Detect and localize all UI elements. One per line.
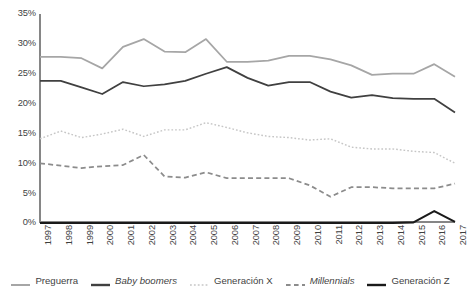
x-tick-2001: 2001 (127, 225, 136, 245)
y-tick-5pct: 5% (2, 189, 36, 198)
legend-item-generacion-x[interactable]: Generación X (190, 276, 273, 286)
legend-swatch-generacion-x (190, 276, 209, 286)
x-tick-2009: 2009 (293, 225, 302, 245)
legend-swatch-baby-boomers (91, 276, 110, 286)
x-tick-1997: 1997 (44, 225, 53, 245)
y-tick-0pct: 0% (2, 218, 36, 227)
series-line-generacion-x (40, 123, 455, 164)
x-tick-2014: 2014 (397, 225, 406, 245)
y-tick-30pct: 30% (2, 39, 36, 48)
legend-item-millennials[interactable]: Millennials (286, 276, 355, 286)
y-axis-tick-labels: 0%5%10%15%20%25%30%35% (0, 0, 36, 295)
legend-label-baby-boomers: Baby boomers (115, 276, 177, 286)
x-tick-2016: 2016 (438, 225, 447, 245)
x-tick-2002: 2002 (148, 225, 157, 245)
y-tick-35pct: 35% (2, 9, 36, 18)
series-line-preguerra (40, 39, 455, 77)
x-axis-tick-labels: 1997199819992000200120022003200420052006… (40, 225, 455, 265)
y-tick-25pct: 25% (2, 69, 36, 78)
legend-label-generacion-x: Generación X (214, 276, 273, 286)
x-tick-2005: 2005 (210, 225, 219, 245)
series-line-generacion-z (40, 211, 455, 223)
x-tick-2007: 2007 (252, 225, 261, 245)
legend-swatch-preguerra (11, 276, 30, 286)
y-tick-10pct: 10% (2, 159, 36, 168)
legend-label-preguerra: Preguerra (35, 276, 78, 286)
x-tick-2011: 2011 (335, 225, 344, 245)
legend-item-generacion-z[interactable]: Generación Z (367, 276, 449, 286)
x-tick-2015: 2015 (418, 225, 427, 245)
y-tick-20pct: 20% (2, 99, 36, 108)
chart-legend: PreguerraBaby boomersGeneración XMillenn… (0, 270, 461, 292)
legend-item-baby-boomers[interactable]: Baby boomers (91, 276, 177, 286)
x-tick-2006: 2006 (231, 225, 240, 245)
x-tick-2017: 2017 (459, 225, 468, 245)
legend-label-generacion-z: Generación Z (391, 276, 449, 286)
x-tick-1998: 1998 (65, 225, 74, 245)
series-line-millennials (40, 155, 455, 197)
x-tick-2000: 2000 (106, 225, 115, 245)
legend-swatch-generacion-z (367, 276, 386, 286)
x-tick-2004: 2004 (189, 225, 198, 245)
x-tick-2012: 2012 (355, 225, 364, 245)
x-tick-2003: 2003 (169, 225, 178, 245)
legend-swatch-millennials (286, 276, 305, 286)
series-lines (40, 14, 455, 223)
legend-label-millennials: Millennials (310, 276, 355, 286)
y-tick-15pct: 15% (2, 129, 36, 138)
legend-item-preguerra[interactable]: Preguerra (11, 276, 78, 286)
x-tick-1999: 1999 (86, 225, 95, 245)
x-tick-2008: 2008 (272, 225, 281, 245)
plot-area (40, 14, 455, 223)
x-tick-2013: 2013 (376, 225, 385, 245)
x-tick-2010: 2010 (314, 225, 323, 245)
